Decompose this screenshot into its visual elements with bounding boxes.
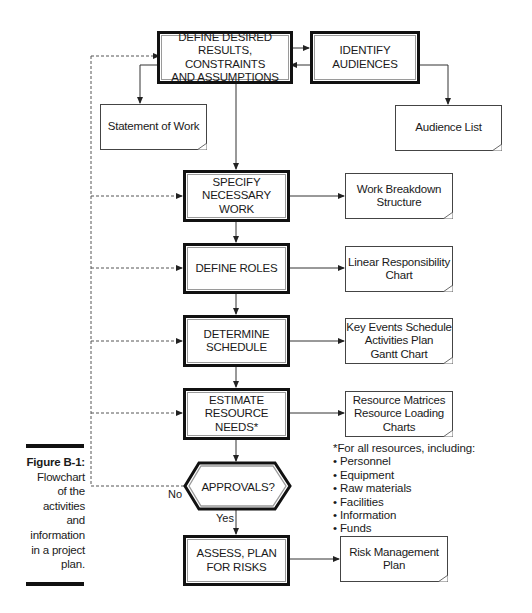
step-estimate-resources: ESTIMATE RESOURCE NEEDS* xyxy=(183,388,290,440)
doc-label: Linear Responsibility Chart xyxy=(348,256,450,283)
step-label: DETERMINE SCHEDULE xyxy=(204,328,270,355)
figure-caption-text: Flowchart of the activities and informat… xyxy=(18,470,85,572)
page-curl-icon xyxy=(443,285,453,292)
page-curl-icon xyxy=(443,212,453,219)
step-define-results: DEFINE DESIRED RESULTS, CONSTRAINTS AND … xyxy=(157,31,293,84)
step-identify-audiences: IDENTIFY AUDIENCES xyxy=(310,31,420,84)
decision-no-label: No xyxy=(168,488,182,500)
footnote-item: Funds xyxy=(333,522,475,535)
footnote-item: Facilities xyxy=(333,496,475,509)
doc-statement-of-work: Statement of Work xyxy=(100,104,207,150)
doc-schedule-plans: Key Events Schedule Activities Plan Gant… xyxy=(345,318,453,364)
flowchart-canvas: DEFINE DESIRED RESULTS, CONSTRAINTS AND … xyxy=(0,0,532,613)
doc-label: Work Breakdown Structure xyxy=(357,183,442,210)
page-curl-icon xyxy=(438,575,448,582)
footnote-item: Information xyxy=(333,509,475,522)
doc-label: Audience List xyxy=(415,121,481,135)
resources-footnote: *For all resources, including: Personnel… xyxy=(333,442,475,536)
step-determine-schedule: DETERMINE SCHEDULE xyxy=(183,315,290,367)
step-specify-work: SPECIFY NECESSARY WORK xyxy=(183,170,290,222)
doc-label: Statement of Work xyxy=(108,120,200,134)
step-label: ASSESS, PLAN FOR RISKS xyxy=(196,547,276,574)
footnote-item: Raw materials xyxy=(333,482,475,495)
step-label: ESTIMATE RESOURCE NEEDS* xyxy=(186,394,287,435)
doc-label: Resource Matrices Resource Loading Chart… xyxy=(353,394,445,435)
doc-audience-list: Audience List xyxy=(395,105,502,151)
doc-resource-matrices: Resource Matrices Resource Loading Chart… xyxy=(345,391,453,437)
footnote-item: Personnel xyxy=(333,455,475,468)
step-assess-risks: ASSESS, PLAN FOR RISKS xyxy=(183,535,290,586)
step-define-roles: DEFINE ROLES xyxy=(183,243,290,294)
step-label: IDENTIFY AUDIENCES xyxy=(332,44,397,71)
page-curl-icon xyxy=(197,143,207,150)
footnote-list: Personnel Equipment Raw materials Facili… xyxy=(333,455,475,535)
doc-work-breakdown-structure: Work Breakdown Structure xyxy=(345,173,453,219)
step-label: DEFINE DESIRED RESULTS, CONSTRAINTS AND … xyxy=(160,31,290,85)
figure-caption: Figure B-1: Flowchart of the activities … xyxy=(18,455,85,572)
footnote-item: Equipment xyxy=(333,469,475,482)
doc-linear-responsibility-chart: Linear Responsibility Chart xyxy=(345,246,453,292)
doc-label: Risk Management Plan xyxy=(349,546,439,573)
decision-label: APPROVALS? xyxy=(183,461,293,512)
page-curl-icon xyxy=(443,430,453,437)
page-curl-icon xyxy=(443,357,453,364)
step-label: DEFINE ROLES xyxy=(196,262,278,276)
doc-risk-management-plan: Risk Management Plan xyxy=(340,536,448,582)
figure-label: Figure B-1: xyxy=(18,455,85,470)
doc-label: Key Events Schedule Activities Plan Gant… xyxy=(346,321,452,362)
decision-yes-label: Yes xyxy=(216,512,234,524)
footnote-title: *For all resources, including: xyxy=(333,442,475,455)
caption-bottom-rule xyxy=(26,582,84,586)
step-label: SPECIFY NECESSARY WORK xyxy=(202,176,271,217)
page-curl-icon xyxy=(492,144,502,151)
caption-top-rule xyxy=(26,444,84,448)
